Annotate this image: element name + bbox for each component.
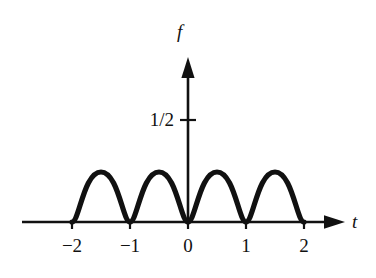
x-axis-arrow-icon xyxy=(324,215,345,229)
x-tick-label-two: 2 xyxy=(284,236,324,255)
math-figure: f t 1/2 −2 −1 0 1 2 xyxy=(0,0,376,278)
y-axis-arrow-icon xyxy=(181,57,194,78)
y-tick-label-half: 1/2 xyxy=(128,110,174,129)
x-tick-label-minus2: −2 xyxy=(52,236,92,255)
y-axis-label: f xyxy=(177,22,182,41)
x-tick-label-zero: 0 xyxy=(168,236,208,255)
x-axis-label: t xyxy=(352,212,357,231)
x-tick-label-minus1: −1 xyxy=(110,236,150,255)
x-tick-label-one: 1 xyxy=(226,236,266,255)
